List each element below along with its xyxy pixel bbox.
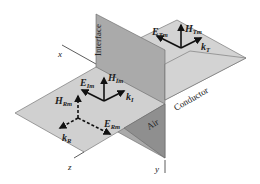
z-axis-label: z xyxy=(67,162,72,172)
x-axis: x xyxy=(57,45,96,64)
z-axis: z xyxy=(67,152,84,172)
y-axis-label: y xyxy=(154,164,159,174)
h-transmitted-label: HTm xyxy=(184,23,202,35)
y-axis: y xyxy=(154,160,165,174)
diagram-canvas: x z y Interface Conductor Air EIm HIm kI… xyxy=(0,0,260,184)
x-axis-label: x xyxy=(57,49,62,59)
interface-label: Interface xyxy=(93,24,103,56)
